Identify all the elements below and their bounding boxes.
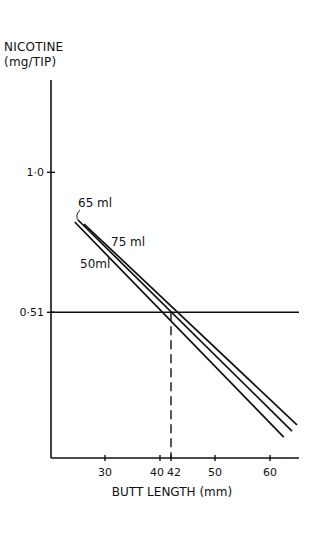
x-axis-label: BUTT LENGTH (mm) [112,485,232,499]
chart-canvas: 0·511·0 3040425060 65 ml 75 ml 50ml BUTT… [0,0,316,533]
series-label-50ml: 50ml [80,257,110,271]
x-tick-label: 50 [208,466,222,479]
x-tick-label: 42 [167,466,181,479]
y-tick-label: 1·0 [27,166,45,179]
series-lines [75,220,297,437]
x-tick-label: 60 [263,466,277,479]
series-line-65ml [78,220,292,431]
series-label-65ml-leader [77,210,80,221]
series-line-75ml [84,224,297,425]
x-tick-label: 30 [98,466,112,479]
series-label-75ml: 75 ml [111,235,145,249]
y-tick-label: 0·51 [20,306,45,319]
series-label-65ml: 65 ml [78,196,112,210]
y-ticks: 0·511·0 [20,166,56,319]
reference-lines [51,312,299,458]
x-tick-label: 40 [150,466,164,479]
series-line-50ml [75,222,284,437]
